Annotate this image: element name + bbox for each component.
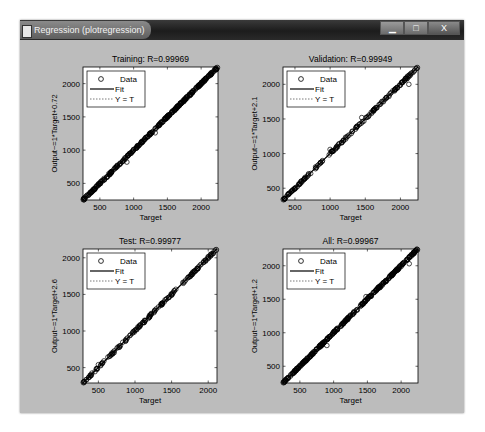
subplot-1: Validation: R=0.999495001000150020005001… (250, 54, 420, 222)
subplot-title: Training: R=0.99969 (112, 54, 189, 64)
y-tick-label: 1000 (262, 329, 280, 338)
x-tick-label: 2000 (192, 203, 210, 212)
y-tick-label: 2000 (62, 254, 80, 263)
y-axis-label: Output~=1*Target+2.6 (50, 279, 59, 353)
y-tick-label: 1000 (62, 146, 80, 155)
x-tick-label: 500 (288, 203, 302, 212)
y-tick-label: 2000 (62, 80, 80, 89)
x-tick-label: 1500 (163, 386, 181, 395)
x-axis-label: Target (339, 213, 362, 222)
figure-window: Regression (plotregression) ▁ □ X Traini… (20, 20, 464, 413)
legend-label: Y = T (315, 277, 334, 286)
legend[interactable]: DataFitY = T (287, 253, 345, 289)
legend-label: Data (120, 75, 137, 84)
legend[interactable]: DataFitY = T (87, 71, 145, 107)
legend-label: Y = T (115, 95, 134, 104)
y-axis-label: Output~=1*Target+0.72 (50, 94, 59, 172)
subplot-3: All: R=0.9996750010001500200050010001500… (250, 236, 420, 405)
y-tick-label: 500 (267, 184, 281, 193)
legend[interactable]: DataFitY = T (87, 253, 145, 289)
subplot-2: Test: R=0.999775001000150020005001000150… (50, 236, 219, 405)
window-title: Regression (plotregression) (34, 25, 145, 35)
x-tick-label: 2000 (392, 386, 410, 395)
legend-label: Fit (115, 267, 125, 276)
x-tick-label: 2000 (199, 386, 217, 395)
x-tick-label: 1000 (126, 386, 144, 395)
x-tick-label: 1500 (158, 203, 176, 212)
legend-label: Fit (315, 85, 325, 94)
y-tick-label: 1500 (62, 290, 80, 299)
title-bar[interactable]: Regression (plotregression) ▁ □ X (20, 20, 464, 40)
x-axis-label: Target (339, 396, 362, 405)
legend-label: Y = T (115, 277, 134, 286)
legend[interactable]: DataFitY = T (287, 71, 345, 107)
regression-plots: Training: R=0.99969500100015002000500100… (20, 40, 464, 413)
x-tick-label: 1000 (325, 386, 343, 395)
x-tick-label: 1000 (321, 203, 339, 212)
subplot-0: Training: R=0.99969500100015002000500100… (50, 54, 220, 222)
x-tick-label: 1500 (356, 203, 374, 212)
subplot-title: Test: R=0.99977 (119, 236, 181, 246)
y-tick-label: 500 (67, 364, 81, 373)
legend-label: Fit (315, 267, 325, 276)
y-axis-label: Output~=1*Target+1.2 (250, 279, 259, 353)
close-button[interactable]: X (428, 21, 460, 35)
legend-label: Fit (115, 85, 125, 94)
y-tick-label: 1500 (262, 295, 280, 304)
y-tick-label: 1500 (62, 113, 80, 122)
window-controls: ▁ □ X (380, 21, 460, 36)
y-tick-label: 2000 (262, 80, 280, 89)
legend-label: Data (120, 257, 137, 266)
subplot-title: Validation: R=0.99949 (309, 54, 393, 64)
matlab-figure-icon (22, 25, 32, 38)
x-tick-label: 500 (92, 386, 106, 395)
maximize-button[interactable]: □ (404, 21, 428, 35)
x-tick-label: 1500 (358, 386, 376, 395)
legend-label: Y = T (315, 95, 334, 104)
y-tick-label: 1500 (262, 115, 280, 124)
minimize-button[interactable]: ▁ (380, 21, 404, 35)
window-title-tab: Regression (plotregression) (20, 21, 151, 39)
figure-canvas: Training: R=0.99969500100015002000500100… (20, 40, 464, 413)
x-axis-label: Target (139, 213, 162, 222)
y-axis-label: Output~=1*Target+2.1 (250, 96, 259, 170)
x-tick-label: 500 (93, 203, 107, 212)
y-tick-label: 500 (267, 362, 281, 371)
y-tick-label: 1000 (262, 150, 280, 159)
x-tick-label: 1000 (125, 203, 143, 212)
x-tick-label: 2000 (392, 203, 410, 212)
x-tick-label: 500 (293, 386, 307, 395)
y-tick-label: 2000 (262, 262, 280, 271)
y-tick-label: 500 (67, 179, 81, 188)
y-tick-label: 1000 (62, 327, 80, 336)
legend-label: Data (320, 75, 337, 84)
subplot-title: All: R=0.99967 (323, 236, 379, 246)
legend-label: Data (320, 257, 337, 266)
x-axis-label: Target (139, 396, 162, 405)
